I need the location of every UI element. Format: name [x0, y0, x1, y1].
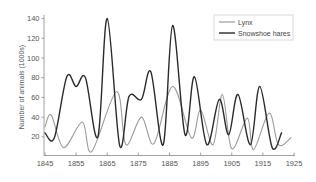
- legend: Lynx Snowshoe hares: [214, 15, 293, 40]
- x-tick-label: 1925: [286, 159, 303, 168]
- x-tick-label: 1895: [192, 159, 209, 168]
- x-tick-label: 1915: [255, 159, 272, 168]
- y-tick-label: 120: [27, 34, 40, 43]
- y-tick-label: 40: [31, 113, 39, 122]
- x-axis: 184518551865187518851895190519151925: [37, 153, 303, 169]
- x-tick-label: 1905: [223, 159, 240, 168]
- x-tick-label: 1885: [161, 159, 178, 168]
- y-tick-label: 20: [31, 132, 39, 141]
- y-axis: 20406080100120140: [27, 14, 44, 155]
- x-tick-label: 1845: [37, 159, 54, 168]
- legend-label-lynx: Lynx: [238, 19, 253, 27]
- y-tick-label: 60: [31, 93, 39, 102]
- y-tick-label: 140: [27, 14, 40, 23]
- population-line-chart: 20406080100120140 1845185518651875188518…: [0, 0, 316, 182]
- x-tick-label: 1875: [130, 159, 147, 168]
- y-tick-label: 80: [31, 73, 39, 82]
- y-tick-label: 100: [27, 54, 40, 63]
- x-tick-label: 1855: [68, 159, 85, 168]
- y-axis-title: Number of animals (1000s): [18, 45, 26, 129]
- x-tick-label: 1865: [99, 159, 116, 168]
- legend-label-snowshoe-hares: Snowshoe hares: [238, 30, 291, 37]
